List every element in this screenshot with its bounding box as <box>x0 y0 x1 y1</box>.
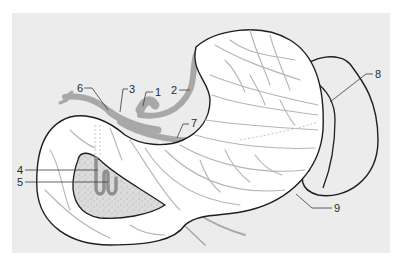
label-2: 2 <box>171 85 177 96</box>
label-5: 5 <box>17 177 23 188</box>
label-8: 8 <box>375 69 381 80</box>
leader-7 <box>177 124 189 138</box>
label-9: 9 <box>334 203 340 214</box>
label-3: 3 <box>129 84 135 95</box>
label-6: 6 <box>77 83 83 94</box>
leader-3 <box>120 89 128 112</box>
label-7: 7 <box>191 118 197 129</box>
label-1: 1 <box>155 87 161 98</box>
label-4: 4 <box>17 165 23 176</box>
stomach-blood-supply-diagram <box>0 0 400 264</box>
